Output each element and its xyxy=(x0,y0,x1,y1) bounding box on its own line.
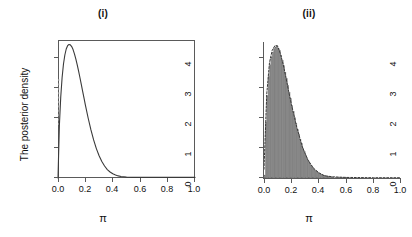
posterior-density-curve-svg xyxy=(58,40,195,178)
x-tick-right-4 xyxy=(373,179,374,183)
y-tick-label-left-4: 4 xyxy=(183,56,193,72)
y-axis-title-left: The posterior density xyxy=(19,55,30,175)
plot-area-left: 0 1 2 3 4 0.0 0.2 0.4 0.6 0.8 1.0 xyxy=(58,40,195,178)
x-tick-left-3 xyxy=(140,178,141,182)
y-tick-label-left-2: 2 xyxy=(183,116,193,132)
x-axis-line-right xyxy=(264,178,401,179)
x-tick-left-2 xyxy=(112,178,113,182)
x-tick-right-5 xyxy=(400,179,401,183)
y-tick-left-2 xyxy=(54,117,58,118)
x-tick-left-4 xyxy=(167,178,168,182)
y-tick-label-left-3: 3 xyxy=(183,86,193,102)
x-tick-label-right-0: 0.0 xyxy=(251,185,277,195)
histogram-bars xyxy=(264,45,349,178)
x-tick-label-left-4: 0.8 xyxy=(154,184,180,194)
y-tick-right-1 xyxy=(259,147,263,148)
y-tick-right-4 xyxy=(259,57,263,58)
x-axis-title-right: π xyxy=(206,212,412,224)
x-tick-label-left-0: 0.0 xyxy=(45,184,71,194)
x-tick-label-left-2: 0.4 xyxy=(99,184,125,194)
x-tick-label-right-1: 0.2 xyxy=(278,185,304,195)
y-tick-label-left-1: 1 xyxy=(183,146,193,162)
y-tick-right-0 xyxy=(259,177,263,178)
x-tick-right-2 xyxy=(318,179,319,183)
y-tick-left-4 xyxy=(54,57,58,58)
y-axis-line-right xyxy=(263,42,264,179)
histogram-svg xyxy=(264,40,401,178)
density-curve-path xyxy=(58,45,195,179)
x-tick-label-left-1: 0.2 xyxy=(72,184,98,194)
x-axis-title-left: π xyxy=(0,212,206,224)
x-tick-left-1 xyxy=(85,178,86,182)
x-tick-right-0 xyxy=(264,179,265,183)
x-tick-label-right-2: 0.4 xyxy=(305,185,331,195)
y-tick-right-2 xyxy=(259,117,263,118)
x-tick-right-1 xyxy=(291,179,292,183)
x-tick-label-right-5: 1.0 xyxy=(387,185,412,195)
y-tick-label-right-2: 2 xyxy=(388,116,398,132)
x-tick-right-3 xyxy=(346,179,347,183)
y-tick-left-3 xyxy=(54,87,58,88)
panel-title-ii: (ii) xyxy=(206,8,412,19)
panel-title-i: (i) xyxy=(0,8,206,19)
panel-posterior-density-curve: (i) The posterior density 0 1 2 3 4 xyxy=(0,0,206,237)
y-tick-label-right-3: 3 xyxy=(388,86,398,102)
panel-posterior-histogram: (ii) xyxy=(206,0,412,237)
y-tick-left-1 xyxy=(54,147,58,148)
x-tick-left-5 xyxy=(194,178,195,182)
x-tick-label-right-3: 0.6 xyxy=(333,185,359,195)
y-tick-label-right-4: 4 xyxy=(388,56,398,72)
x-tick-label-left-3: 0.6 xyxy=(127,184,153,194)
x-tick-label-right-4: 0.8 xyxy=(360,185,386,195)
y-tick-right-3 xyxy=(259,87,263,88)
plot-area-right: 0 1 2 3 4 0.0 0.2 0.4 0.6 0.8 1.0 xyxy=(264,40,401,178)
x-tick-label-left-5: 1.0 xyxy=(181,184,207,194)
x-tick-left-0 xyxy=(58,178,59,182)
figure-canvas: (i) The posterior density 0 1 2 3 4 xyxy=(0,0,412,237)
y-tick-label-right-1: 1 xyxy=(388,146,398,162)
